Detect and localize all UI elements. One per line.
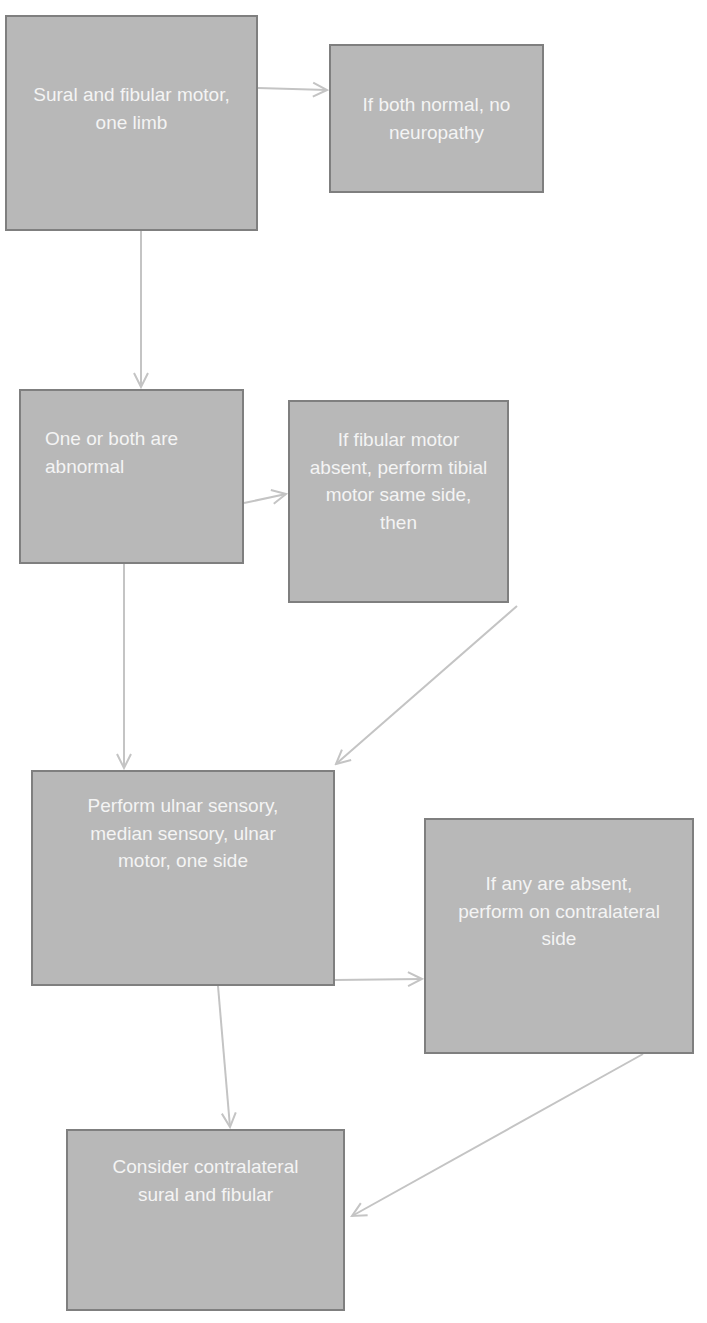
node-sural-fibular-motor: Sural and fibular motor, one limb: [5, 15, 258, 231]
node-fibular-absent: If fibular motor absent, perform tibial …: [288, 400, 509, 603]
edge-n1-n2: [258, 88, 327, 90]
node-label: If fibular motor absent, perform tibial …: [306, 426, 491, 536]
node-label: Sural and fibular motor, one limb: [19, 81, 244, 136]
node-label: If any are absent, perform on contralate…: [452, 870, 666, 953]
node-label: Consider contralateral sural and fibular: [102, 1153, 309, 1208]
node-both-normal: If both normal, no neuropathy: [329, 44, 544, 193]
node-any-absent: If any are absent, perform on contralate…: [424, 818, 694, 1054]
node-label: One or both are abnormal: [45, 425, 218, 480]
edge-n4-n5: [336, 606, 517, 764]
edge-n3-n4: [244, 494, 286, 503]
node-label: If both normal, no neuropathy: [361, 91, 512, 146]
node-ulnar-median: Perform ulnar sensory, median sensory, u…: [31, 770, 335, 986]
node-label: Perform ulnar sensory, median sensory, u…: [83, 792, 283, 875]
edge-n5-n7: [218, 986, 230, 1127]
edge-n6-n7: [352, 1054, 643, 1216]
edge-n5-n6: [335, 979, 422, 980]
node-abnormal: One or both are abnormal: [19, 389, 244, 564]
node-contralateral-sural: Consider contralateral sural and fibular: [66, 1129, 345, 1311]
